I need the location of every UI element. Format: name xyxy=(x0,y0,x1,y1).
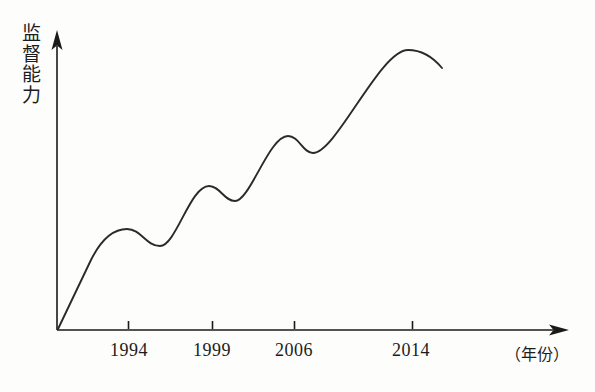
y-axis-title: 监督能力 xyxy=(20,24,42,106)
x-tick-label-2014: 2014 xyxy=(381,340,441,361)
chart-canvas xyxy=(0,0,595,392)
x-tick-label-1999: 1999 xyxy=(182,340,242,361)
x-tick-label-2006: 2006 xyxy=(264,340,324,361)
x-tick-label-1994: 1994 xyxy=(99,340,159,361)
supervision-ability-curve xyxy=(58,50,442,329)
x-axis-title: （年份） xyxy=(505,341,569,365)
supervision-ability-chart: 监督能力 1994 1999 2006 2014 （年份） xyxy=(0,0,595,392)
